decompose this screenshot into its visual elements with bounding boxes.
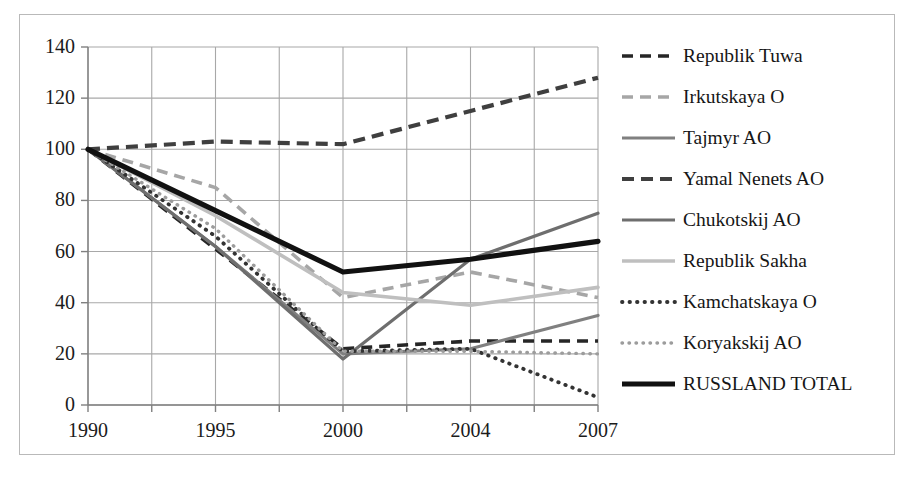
- legend-label: Yamal Nenets AO: [683, 169, 824, 189]
- chart-legend: Republik TuwaIrkutskaya OTajmyr AOYamal …: [620, 37, 896, 437]
- legend-label: Irkutskaya O: [683, 87, 784, 107]
- legend-item-7[interactable]: Koryakskij AO: [620, 324, 896, 362]
- legend-swatch-icon: [620, 90, 677, 104]
- line-chart-svg: [20, 15, 620, 456]
- legend-swatch-icon: [620, 131, 677, 145]
- y-tick-label: 20: [20, 343, 75, 363]
- legend-swatch-icon: [620, 295, 677, 309]
- legend-label: Tajmyr AO: [683, 128, 771, 148]
- legend-swatch-icon: [620, 172, 677, 186]
- legend-label: Koryakskij AO: [683, 333, 802, 353]
- legend-item-8[interactable]: RUSSLAND TOTAL: [620, 365, 896, 403]
- legend-swatch-icon: [620, 49, 677, 63]
- plot-area: 140120100806040200 19901995200020042007: [20, 15, 620, 456]
- legend-item-4[interactable]: Chukotskij AO: [620, 201, 896, 239]
- legend-item-1[interactable]: Irkutskaya O: [620, 78, 896, 116]
- legend-label: Kamchatskaya O: [683, 292, 817, 312]
- legend-item-5[interactable]: Republik Sakha: [620, 242, 896, 280]
- legend-swatch-icon: [620, 254, 677, 268]
- y-tick-label: 0: [20, 394, 75, 414]
- legend-swatch-icon: [620, 377, 677, 391]
- legend-label: RUSSLAND TOTAL: [683, 374, 852, 394]
- y-tick-label: 60: [20, 241, 75, 261]
- x-tick-label: 2000: [298, 420, 388, 440]
- y-tick-label: 80: [20, 189, 75, 209]
- legend-swatch-icon: [620, 213, 677, 227]
- x-tick-label: 2004: [426, 420, 516, 440]
- legend-item-0[interactable]: Republik Tuwa: [620, 37, 896, 75]
- x-tick-label: 1995: [171, 420, 261, 440]
- legend-item-3[interactable]: Yamal Nenets AO: [620, 160, 896, 198]
- chart-figure: 140120100806040200 19901995200020042007 …: [19, 14, 895, 455]
- y-tick-label: 120: [20, 87, 75, 107]
- legend-label: Chukotskij AO: [683, 210, 801, 230]
- legend-label: Republik Sakha: [683, 251, 807, 271]
- legend-swatch-icon: [620, 336, 677, 350]
- x-tick-label: 1990: [43, 420, 133, 440]
- y-tick-label: 140: [20, 36, 75, 56]
- legend-item-6[interactable]: Kamchatskaya O: [620, 283, 896, 321]
- legend-item-2[interactable]: Tajmyr AO: [620, 119, 896, 157]
- y-tick-label: 40: [20, 292, 75, 312]
- y-tick-label: 100: [20, 138, 75, 158]
- legend-label: Republik Tuwa: [683, 46, 803, 66]
